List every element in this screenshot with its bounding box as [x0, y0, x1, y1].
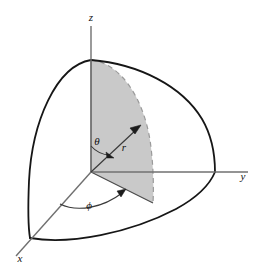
- x-axis-line: [16, 172, 91, 256]
- radius-label: r: [122, 141, 127, 153]
- x-axis-label: x: [17, 252, 23, 264]
- z-axis-label: z: [88, 11, 94, 23]
- spherical-coordinates-figure: z y x θ ϕ r: [0, 0, 257, 277]
- phi-label: ϕ: [86, 199, 92, 211]
- theta-label: θ: [94, 135, 100, 147]
- shaded-wedge-fill: [91, 60, 153, 203]
- y-axis-label: y: [240, 170, 246, 182]
- diagram-canvas: z y x θ ϕ r: [0, 0, 257, 277]
- sphere-arc-xz: [28, 60, 91, 238]
